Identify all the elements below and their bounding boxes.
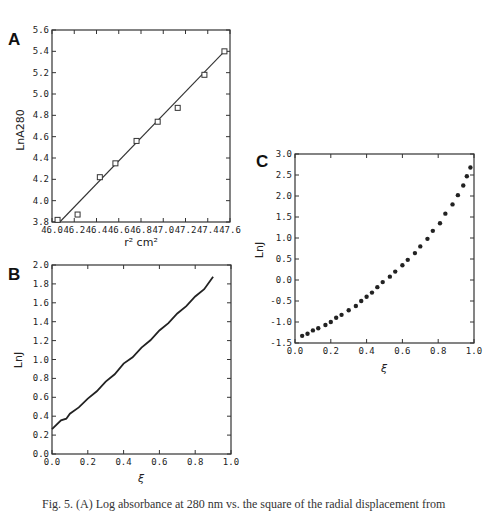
panel-c-data-point [339,313,343,317]
panel-c-data-point [329,320,333,324]
panel-b-xtick-label: 1.0 [223,457,239,467]
panel-a-fit-line [60,51,225,222]
panel-c-data-point [406,258,410,262]
panel-b-series-line [52,277,213,429]
panel-c-data-point [316,326,320,330]
panel-a-data-point [202,72,207,77]
panel-c-data-point [468,165,472,169]
panel-c-data-point [305,332,309,336]
panel-b-ytick-label: 0.6 [33,392,49,402]
panel-c-data-point [443,211,447,215]
panel-c-ytick-label: 2.5 [276,170,292,180]
panel-c: C 0.00.20.40.60.81.0-1.5-1.0-0.50.00.51.… [253,149,482,375]
panel-b-xtick-label: 0.6 [151,457,167,467]
panel-b-label: B [8,265,20,284]
panel-a-xtick-label: 46.6 [108,225,130,235]
panel-a-ytick-label: 4.4 [33,153,49,163]
panel-b-ytick-label: 2.0 [33,260,49,270]
panel-c-marks [300,165,473,338]
panel-a-ytick-label: 5.4 [33,46,49,56]
panel-a-ytick-label: 4.8 [33,110,49,120]
panel-c-data-point [323,323,327,327]
panel-c-data-point [461,183,465,187]
panel-c-data-point [400,263,404,267]
panel-b-ytick-label: 1.0 [33,355,49,365]
panel-a-xtick-label: 47.0 [152,225,174,235]
panel-c-ytick-label: -1.0 [270,317,292,327]
panel-a-ylabel: LnA280 [14,109,27,151]
panel-b-ytick-label: 0.0 [33,449,49,459]
panel-a-ytick-label: 4.6 [33,132,49,142]
panel-b-xlabel: ξ [137,472,145,485]
panel-c-ytick-label: 0.0 [276,275,292,285]
panel-b-ytick-label: 1.4 [33,317,49,327]
panel-a-ytick-label: 5.0 [33,89,49,99]
panel-c-xlabel: ξ [380,362,388,375]
panel-c-ytick-label: 0.5 [276,254,292,264]
panel-b-xtick-label: 0.2 [80,457,96,467]
panel-c-xtick-label: 1.0 [466,346,482,356]
panel-a-xtick-label: 47.4 [197,225,219,235]
panel-a-ytick-label: 5.2 [33,68,49,78]
panel-a-data-point [175,105,180,110]
panel-c-xtick-label: 0.4 [358,346,374,356]
panel-c-label: C [256,152,268,171]
panel-c-ticks: 0.00.20.40.60.81.0-1.5-1.0-0.50.00.51.01… [270,149,482,356]
panel-a-data-point [134,138,139,143]
panel-c-ytick-label: -1.5 [270,338,292,348]
panel-c-data-point [456,193,460,197]
panel-c-ytick-label: -0.5 [270,296,292,306]
panel-a-ytick-label: 4.0 [33,196,49,206]
panel-a-data-point [75,212,80,217]
panel-a-xlabel: r² cm² [124,236,158,249]
panel-c-xtick-label: 0.8 [430,346,446,356]
figure-caption: Fig. 5. (A) Log absorbance at 280 nm vs.… [42,497,445,512]
panel-a-ytick-label: 4.2 [33,174,49,184]
panel-c-data-point [375,285,379,289]
panel-c-data-point [370,290,374,294]
panel-c-ytick-label: 1.5 [276,212,292,222]
panel-a-xtick-label: 47.6 [219,225,241,235]
panel-c-data-point [413,251,417,255]
panel-c-data-point [311,328,315,332]
panel-c-data-point [450,202,454,206]
panel-b-ytick-label: 1.8 [33,279,49,289]
panel-b: B 0.00.20.40.60.81.00.00.20.40.60.81.01.… [8,260,239,485]
panel-c-xtick-label: 0.2 [323,346,339,356]
panel-b-xtick-label: 0.8 [187,457,203,467]
panel-c-ytick-label: 2.0 [276,191,292,201]
panel-b-ytick-label: 0.4 [33,411,49,421]
panel-a-data-point [222,49,227,54]
panel-c-ytick-label: 3.0 [276,149,292,159]
panel-a: A 46.046.246.446.646.847.047.247.447.63.… [8,25,241,249]
panel-b-ticks: 0.00.20.40.60.81.00.00.20.40.60.81.01.21… [33,260,239,467]
panel-a-xtick-label: 46.8 [130,225,152,235]
panel-c-data-point [334,316,338,320]
panel-b-ylabel: LnJ [12,352,25,368]
panel-a-xtick-label: 46.2 [63,225,85,235]
panel-c-frame [295,154,474,343]
panel-c-ylabel: LnJ [253,242,266,258]
panel-c-data-point [393,269,397,273]
panel-a-xtick-label: 46.4 [86,225,108,235]
panel-c-data-point [359,299,363,303]
panel-c-data-point [431,229,435,233]
panel-a-data-point [97,175,102,180]
panel-c-ytick-label: 1.0 [276,233,292,243]
panel-c-data-point [418,244,422,248]
panel-a-frame [52,30,230,222]
panel-a-label: A [8,30,20,49]
panel-b-ytick-label: 0.2 [33,430,49,440]
panel-a-data-point [55,217,60,222]
panel-b-xtick-label: 0.4 [115,457,131,467]
panel-c-xtick-label: 0.6 [394,346,410,356]
panel-a-ytick-label: 3.8 [33,217,49,227]
panel-b-frame [52,265,231,454]
panel-a-ytick-label: 5.6 [33,25,49,35]
panel-a-data-point [113,161,118,166]
panel-c-data-point [354,304,358,308]
panel-c-data-point [381,280,385,284]
panel-c-data-point [347,308,351,312]
panel-b-ytick-label: 1.2 [33,336,49,346]
